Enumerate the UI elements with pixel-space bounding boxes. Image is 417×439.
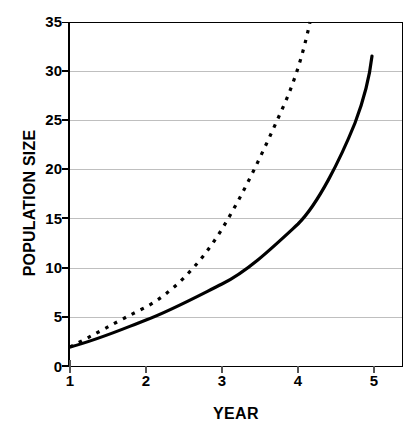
x-tick-label: 4 <box>283 372 313 389</box>
y-axis-ticks <box>62 23 68 367</box>
x-tick-label: 2 <box>131 372 161 389</box>
x-axis-title: YEAR <box>68 405 404 423</box>
population-growth-chart: POPULATION SIZE 35 30 25 20 15 10 5 0 <box>0 0 417 439</box>
x-tick-label: 5 <box>359 372 389 389</box>
gridlines <box>68 71 403 317</box>
series-solid-curve <box>70 56 372 347</box>
x-tick-label: 1 <box>55 372 85 389</box>
x-tick-label: 3 <box>207 372 237 389</box>
plot-frame <box>68 22 403 367</box>
